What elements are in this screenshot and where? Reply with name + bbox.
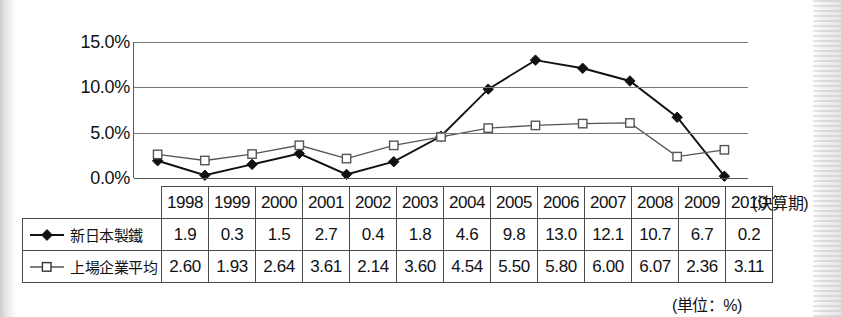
legend-marker-square-icon [29, 260, 65, 274]
value-cell: 1.93 [209, 251, 256, 283]
value-cell: 0.3 [209, 219, 256, 251]
gridline [134, 133, 748, 134]
year-header-cell: 2003 [397, 187, 444, 219]
gridline [134, 42, 748, 43]
year-header-cell: 2000 [256, 187, 303, 219]
data-point-marker [578, 119, 586, 127]
plot-area [133, 42, 748, 178]
value-cell: 10.7 [632, 219, 679, 251]
data-point-marker [295, 141, 303, 149]
table-header-row: 1998199920002001200220032004200520062007… [23, 187, 773, 219]
y-axis-tick-labels: 15.0%10.0%5.0%0.0% [52, 0, 130, 200]
value-cell: 1.9 [162, 219, 209, 251]
data-point-marker [531, 121, 539, 129]
legend-label: 上場企業平均 [70, 256, 157, 277]
data-point-marker [247, 159, 257, 169]
data-point-marker [248, 150, 256, 158]
data-point-marker [578, 63, 588, 73]
year-header-cell: 2008 [632, 187, 679, 219]
data-point-marker [153, 150, 161, 158]
value-cell: 12.1 [585, 219, 632, 251]
legend-marker-diamond-icon [29, 228, 65, 242]
value-cell: 4.6 [444, 219, 491, 251]
value-cell: 1.8 [397, 219, 444, 251]
unit-note: (単位：%) [672, 292, 742, 316]
data-point-marker [720, 146, 728, 154]
value-cell: 0.2 [726, 219, 773, 251]
value-cell: 3.11 [726, 251, 773, 283]
value-cell: 3.60 [397, 251, 444, 283]
line-chart: 15.0%10.0%5.0%0.0% [0, 0, 800, 200]
x-axis-caption: (決算期) [752, 190, 808, 214]
year-header-cell: 2002 [350, 187, 397, 219]
series-layer [134, 42, 748, 178]
value-cell: 13.0 [538, 219, 585, 251]
y-tick-label: 15.0% [80, 32, 130, 53]
legend-cell-series-2: 上場企業平均 [23, 251, 162, 283]
legend-label: 新日本製鐵 [70, 224, 143, 245]
data-point-marker [390, 141, 398, 149]
year-header-cell: 2001 [303, 187, 350, 219]
year-header-cell: 2006 [538, 187, 585, 219]
value-cell: 9.8 [491, 219, 538, 251]
scanned-figure-page: 15.0%10.0%5.0%0.0% 199819992000200120022… [0, 0, 841, 317]
value-cell: 2.60 [162, 251, 209, 283]
value-cell: 6.7 [679, 219, 726, 251]
x-axis-line [134, 178, 748, 179]
value-cell: 2.36 [679, 251, 726, 283]
year-header-cell: 2009 [679, 187, 726, 219]
data-table: 1998199920002001200220032004200520062007… [22, 186, 773, 283]
data-point-marker [342, 154, 350, 162]
value-cell: 1.5 [256, 219, 303, 251]
value-cell: 6.00 [585, 251, 632, 283]
table-row: 新日本製鐵1.90.31.52.70.41.84.69.813.012.110.… [23, 219, 773, 251]
gridline [134, 87, 748, 88]
scan-edge-right-artifact [813, 0, 841, 317]
year-header-cell: 2004 [444, 187, 491, 219]
value-cell: 2.14 [350, 251, 397, 283]
year-header-cell: 2005 [491, 187, 538, 219]
year-header-cell: 1998 [162, 187, 209, 219]
value-cell: 0.4 [350, 219, 397, 251]
value-cell: 2.7 [303, 219, 350, 251]
data-point-marker [530, 55, 540, 65]
data-point-marker [201, 156, 209, 164]
series-line-1 [158, 60, 725, 176]
value-cell: 6.07 [632, 251, 679, 283]
value-cell: 3.61 [303, 251, 350, 283]
data-point-marker [437, 133, 445, 141]
legend-header-cell [23, 187, 162, 219]
legend-cell-series-1: 新日本製鐵 [23, 219, 162, 251]
data-point-marker [389, 156, 399, 166]
value-cell: 2.64 [256, 251, 303, 283]
year-header-cell: 1999 [209, 187, 256, 219]
value-cell: 4.54 [444, 251, 491, 283]
value-cell: 5.80 [538, 251, 585, 283]
table-row: 上場企業平均2.601.932.643.612.143.604.545.505.… [23, 251, 773, 283]
year-header-cell: 2007 [585, 187, 632, 219]
y-tick-label: 10.0% [80, 77, 130, 98]
data-point-marker [484, 124, 492, 132]
data-point-marker [673, 152, 681, 160]
value-cell: 5.50 [491, 251, 538, 283]
data-point-marker [626, 119, 634, 127]
y-tick-label: 5.0% [90, 122, 130, 143]
